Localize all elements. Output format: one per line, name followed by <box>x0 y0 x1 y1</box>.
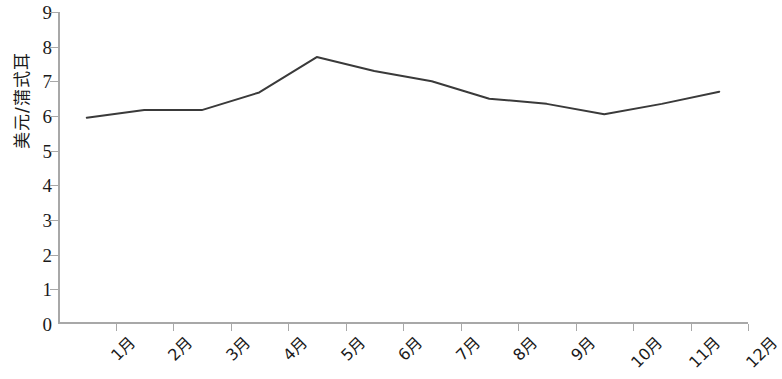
y-axis-tick-mark <box>50 47 58 48</box>
y-axis-tick-labels: 0123456789 <box>22 0 52 379</box>
y-axis-tick-label: 8 <box>26 37 52 56</box>
y-axis-tick-label: 9 <box>26 3 52 22</box>
x-axis-tick-label: 12月 <box>744 334 781 371</box>
y-axis-tick-mark <box>50 289 58 290</box>
x-axis-tick-label: 11月 <box>686 334 723 371</box>
x-axis-tick-label: 1月 <box>108 334 138 364</box>
x-axis-tick-label: 9月 <box>568 334 598 364</box>
y-axis-tick-label: 4 <box>26 176 52 195</box>
y-axis-tick-label: 6 <box>26 107 52 126</box>
y-axis-tick-label: 7 <box>26 72 52 91</box>
y-axis-tick-label: 3 <box>26 211 52 230</box>
y-axis-tick-mark <box>50 116 58 117</box>
y-axis-tick-mark <box>50 185 58 186</box>
y-axis-tick-mark <box>50 12 58 13</box>
x-axis-tick-label: 4月 <box>281 334 311 364</box>
x-axis-tick-label: 6月 <box>396 334 426 364</box>
y-axis-tick-label: 0 <box>26 315 52 334</box>
y-axis-tick-mark <box>50 151 58 152</box>
y-axis-tick-mark <box>50 220 58 221</box>
x-axis-tick-label: 8月 <box>511 334 541 364</box>
plot-area <box>58 12 748 324</box>
x-axis-tick-label: 7月 <box>453 334 483 364</box>
x-axis-tick-mark <box>748 324 749 331</box>
y-axis-tick-label: 2 <box>26 245 52 264</box>
x-axis-tick-label: 5月 <box>338 334 368 364</box>
y-axis-tick-label: 5 <box>26 141 52 160</box>
x-axis-tick-label: 2月 <box>166 334 196 364</box>
data-series-line <box>58 12 748 324</box>
x-axis-tick-label: 3月 <box>223 334 253 364</box>
x-axis-tick-labels: 1月2月3月4月5月6月7月8月9月10月11月12月 <box>58 326 748 379</box>
x-axis-tick-label: 10月 <box>629 334 666 371</box>
y-axis-tick-mark <box>50 81 58 82</box>
y-axis-tick-label: 1 <box>26 280 52 299</box>
y-axis-tick-mark <box>50 255 58 256</box>
